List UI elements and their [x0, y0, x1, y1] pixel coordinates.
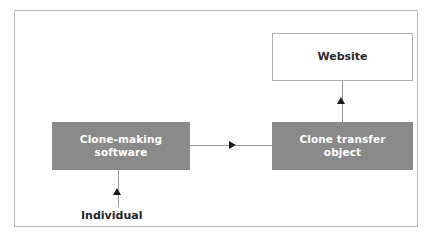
arrow-right-icon	[229, 141, 236, 149]
node-website: Website	[272, 33, 413, 81]
node-clone-transfer-object: Clone transfer object	[272, 122, 413, 170]
diagram-canvas: Website Clone-making software Clone tran…	[0, 0, 436, 241]
arrow-up-icon	[113, 188, 121, 195]
figure-frame: Website Clone-making software Clone tran…	[14, 10, 418, 227]
node-label-line-2: object	[324, 146, 361, 158]
label-individual: Individual	[81, 209, 142, 222]
node-clone-making-software-label: Clone-making software	[80, 133, 162, 159]
node-label-line-2: software	[95, 146, 148, 158]
node-website-label: Website	[317, 50, 367, 63]
arrow-up-icon	[337, 97, 345, 104]
node-label-line-1: Clone-making	[80, 133, 162, 145]
node-clone-transfer-object-label: Clone transfer object	[299, 133, 385, 159]
node-clone-making-software: Clone-making software	[52, 122, 190, 170]
node-label-line-1: Clone transfer	[299, 133, 385, 145]
